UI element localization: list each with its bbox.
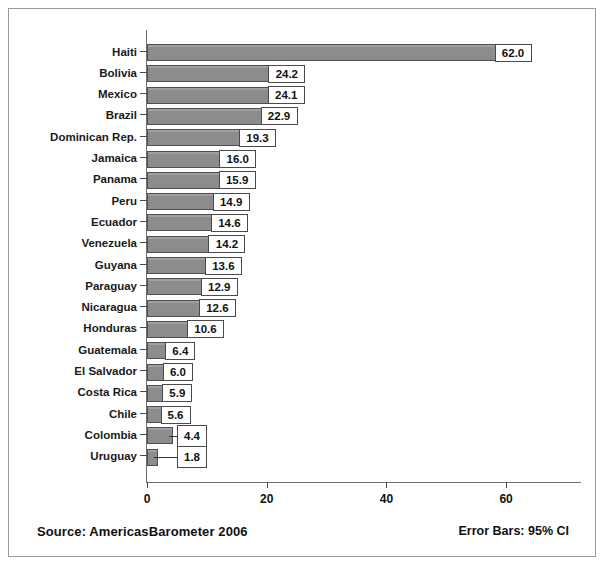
- category-label-nicaragua: Nicaragua: [81, 301, 137, 313]
- value-label-guyana: 13.6: [205, 257, 242, 275]
- y-axis-tick: [140, 455, 147, 456]
- y-axis-tick: [140, 157, 147, 158]
- value-label-venezuela: 14.2: [208, 235, 245, 253]
- value-label-costa-rica: 5.9: [162, 384, 192, 402]
- value-label-peru: 14.9: [213, 193, 250, 211]
- x-axis-line: [146, 482, 581, 483]
- value-label-guatemala: 6.4: [165, 342, 195, 360]
- category-label-paraguay: Paraguay: [85, 280, 137, 292]
- y-axis-tick: [140, 93, 147, 94]
- value-label-uruguay: 1.8: [177, 446, 207, 468]
- plot-area: Haiti62.0Bolivia24.2Mexico24.1Brazil22.9…: [0, 0, 606, 567]
- value-label-nicaragua: 12.6: [199, 299, 236, 317]
- x-axis-tick-label-0: 0: [144, 492, 151, 506]
- leader-line: [154, 457, 177, 458]
- value-label-honduras: 10.6: [187, 320, 224, 338]
- category-label-colombia: Colombia: [85, 429, 137, 441]
- category-label-guyana: Guyana: [95, 259, 137, 271]
- value-label-brazil: 22.9: [261, 107, 298, 125]
- y-axis-tick: [140, 72, 147, 73]
- y-axis-tick: [140, 221, 147, 222]
- category-label-chile: Chile: [109, 408, 137, 420]
- source-note: Source: AmericasBarometer 2006: [37, 524, 248, 539]
- y-axis-tick: [140, 370, 147, 371]
- y-axis-tick: [140, 51, 147, 52]
- x-axis-tick-label-40: 40: [380, 492, 393, 506]
- category-label-el-salvador: El Salvador: [74, 365, 137, 377]
- category-label-peru: Peru: [111, 195, 137, 207]
- category-label-costa-rica: Costa Rica: [78, 386, 137, 398]
- category-label-ecuador: Ecuador: [91, 216, 137, 228]
- category-label-jamaica: Jamaica: [92, 152, 137, 164]
- category-label-bolivia: Bolivia: [99, 67, 137, 79]
- y-axis-tick: [140, 349, 147, 350]
- value-label-bolivia: 24.2: [268, 65, 305, 83]
- category-label-brazil: Brazil: [106, 109, 137, 121]
- category-label-venezuela: Venezuela: [81, 237, 137, 249]
- y-axis-tick: [140, 264, 147, 265]
- x-axis-tick-label-60: 60: [499, 492, 512, 506]
- category-label-mexico: Mexico: [98, 88, 137, 100]
- value-label-paraguay: 12.9: [201, 278, 238, 296]
- category-label-haiti: Haiti: [112, 46, 137, 58]
- value-label-jamaica: 16.0: [219, 150, 256, 168]
- x-axis-tick-40: [386, 482, 387, 488]
- y-axis-tick: [140, 242, 147, 243]
- x-axis-tick-60: [506, 482, 507, 488]
- x-axis-tick-0: [147, 482, 148, 488]
- value-label-panama: 15.9: [219, 171, 256, 189]
- y-axis-tick: [140, 413, 147, 414]
- y-axis-tick: [140, 391, 147, 392]
- value-label-haiti: 62.0: [495, 44, 532, 62]
- x-axis-tick-label-20: 20: [260, 492, 273, 506]
- value-label-colombia: 4.4: [177, 425, 207, 447]
- error-bars-note: Error Bars: 95% CI: [459, 524, 569, 538]
- value-label-ecuador: 14.6: [211, 214, 248, 232]
- value-label-el-salvador: 6.0: [163, 363, 193, 381]
- x-axis-tick-20: [267, 482, 268, 488]
- y-axis-tick: [140, 434, 147, 435]
- y-axis-tick: [140, 285, 147, 286]
- value-label-mexico: 24.1: [268, 86, 305, 104]
- category-label-honduras: Honduras: [83, 322, 137, 334]
- category-label-panama: Panama: [93, 173, 137, 185]
- category-label-dominican-rep: Dominican Rep.: [50, 131, 137, 143]
- category-label-uruguay: Uruguay: [90, 450, 137, 462]
- y-axis-tick: [140, 306, 147, 307]
- y-axis-tick: [140, 200, 147, 201]
- value-label-chile: 5.6: [161, 406, 191, 424]
- category-label-guatemala: Guatemala: [78, 344, 137, 356]
- value-label-dominican-rep: 19.3: [239, 129, 276, 147]
- y-axis-tick: [140, 327, 147, 328]
- leader-line: [169, 436, 177, 437]
- y-axis-tick: [140, 114, 147, 115]
- y-axis-tick: [140, 178, 147, 179]
- bar-haiti: [147, 44, 518, 61]
- chart-figure: Haiti62.0Bolivia24.2Mexico24.1Brazil22.9…: [0, 0, 606, 567]
- y-axis-tick: [140, 136, 147, 137]
